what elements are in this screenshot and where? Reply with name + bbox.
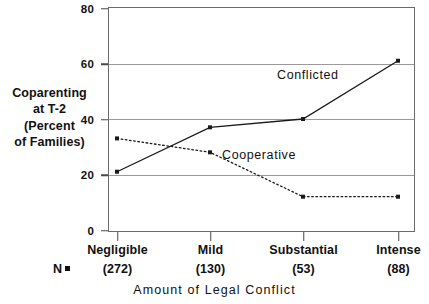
chart-figure: Coparenting at T-2 (Percent of Families)… (0, 0, 429, 304)
y-tick-label: 40 (81, 114, 94, 126)
x-tick-mark (303, 232, 305, 241)
y-tick-label: 60 (81, 58, 94, 70)
series-label-conflicted: Conflicted (277, 68, 339, 82)
data-point (396, 59, 400, 63)
x-tick-group-size: (53) (292, 262, 315, 276)
x-tick-group-size: (130) (196, 262, 226, 276)
x-tick-label: Mild (198, 243, 223, 257)
data-point (208, 125, 212, 129)
x-tick-label: Substantial (269, 243, 337, 257)
series-label-cooperative: Cooperative (222, 148, 296, 162)
y-tick-mark (101, 230, 108, 232)
y-tick-label: 0 (87, 225, 94, 237)
x-tick-group-size: (88) (387, 262, 410, 276)
data-point (301, 195, 305, 199)
n-legend-label: N (53, 262, 62, 276)
x-tick-mark (117, 232, 119, 241)
series-layer (109, 8, 413, 230)
y-tick-mark (101, 119, 108, 121)
y-tick-label: 80 (81, 3, 94, 15)
equals-icon (65, 266, 70, 271)
y-axis: 020406080 (0, 0, 108, 240)
x-axis-title: Amount of Legal Conflict (0, 283, 429, 297)
data-point (115, 170, 119, 174)
data-point (208, 150, 212, 154)
x-tick-mark (210, 232, 212, 241)
data-point (396, 195, 400, 199)
plot-area (108, 7, 415, 232)
x-tick-label: Negligible (87, 243, 148, 257)
y-tick-label: 20 (81, 169, 94, 181)
y-tick-mark (101, 8, 108, 10)
x-tick-label: Intense (376, 243, 420, 257)
y-tick-mark (101, 63, 108, 65)
y-tick-mark (101, 174, 108, 176)
n-legend: N (53, 262, 70, 276)
x-tick-group-size: (272) (103, 262, 133, 276)
data-point (115, 136, 119, 140)
data-point (301, 117, 305, 121)
x-tick-mark (398, 232, 400, 241)
